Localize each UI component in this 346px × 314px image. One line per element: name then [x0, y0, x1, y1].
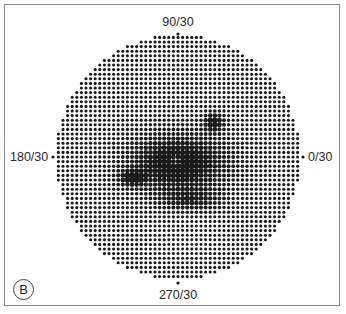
visual-field-dot-map	[0, 0, 346, 314]
tick-bottom	[176, 281, 179, 284]
axis-label-270: 270/30	[159, 289, 197, 302]
tick-top	[176, 32, 179, 35]
axis-label-90: 90/30	[162, 16, 193, 29]
axis-label-180: 180/30	[10, 151, 48, 164]
panel-label-badge: B	[13, 279, 34, 300]
tick-right	[301, 155, 304, 158]
axis-label-0: 0/30	[308, 151, 332, 164]
dot-grid	[57, 36, 299, 278]
tick-left	[51, 155, 54, 158]
